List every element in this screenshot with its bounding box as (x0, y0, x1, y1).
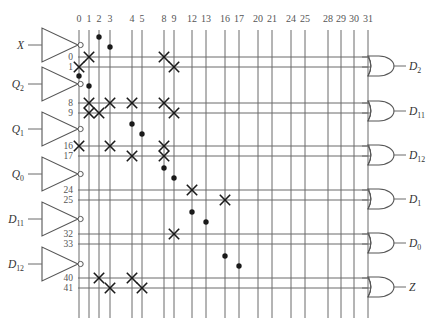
or-gate-body[interactable] (368, 233, 394, 253)
row-label: 40 (64, 273, 74, 283)
column-label: 13 (201, 13, 211, 24)
input-signal-label: X (16, 39, 25, 51)
row-label: 24 (64, 185, 74, 195)
connection-dot[interactable] (222, 253, 227, 258)
inverting-bubble-icon (78, 171, 83, 176)
column-label: 5 (140, 13, 145, 24)
column-label: 24 (286, 13, 296, 24)
pla-diagram-canvas: 0123458912131617202124252829303101891617… (0, 0, 430, 328)
row-label: 17 (64, 151, 74, 161)
row-label: 8 (68, 98, 73, 108)
column-label: 8 (162, 13, 167, 24)
connection-dot[interactable] (189, 209, 194, 214)
buffer-output-link (83, 264, 85, 278)
column-label: 16 (220, 13, 230, 24)
connection-dot[interactable] (171, 175, 176, 180)
or-gate-body[interactable] (368, 189, 394, 209)
column-label: 17 (234, 13, 244, 24)
column-label: 28 (323, 13, 333, 24)
column-label: 20 (253, 13, 263, 24)
column-label: 21 (267, 13, 277, 24)
column-label: 30 (349, 13, 359, 24)
cross-marks-group (74, 52, 230, 293)
column-label: 4 (130, 13, 135, 24)
input-buffers-group: XQ2Q1Q0D11D12 (7, 28, 87, 281)
inverting-bubble-icon (78, 126, 83, 131)
or-gate-body[interactable] (368, 101, 394, 121)
buffer-output-link (83, 45, 85, 57)
inverting-bubble-icon (78, 42, 83, 47)
row-label: 0 (68, 52, 73, 62)
output-signal-label: D1 (408, 193, 421, 208)
row-label: 41 (64, 283, 74, 293)
input-signal-label: D12 (7, 258, 24, 273)
connection-dot[interactable] (86, 83, 91, 88)
connection-dot[interactable] (96, 34, 101, 39)
row-label: 16 (64, 141, 74, 151)
inverting-bubble-icon (78, 216, 83, 221)
column-lines-group: 01234589121316172021242528293031 (77, 13, 374, 318)
or-gate-body[interactable] (368, 277, 394, 297)
connection-dot[interactable] (107, 44, 112, 49)
inverting-bubble-icon (78, 81, 83, 86)
output-signal-label: D2 (408, 60, 421, 75)
connection-dot[interactable] (203, 219, 208, 224)
output-signal-label: Z (409, 281, 416, 293)
output-signal-label: D12 (408, 149, 425, 164)
connection-dot[interactable] (129, 121, 134, 126)
pla-diagram-root: 0123458912131617202124252829303101891617… (0, 0, 430, 328)
column-label: 29 (336, 13, 346, 24)
column-label: 31 (363, 13, 373, 24)
input-signal-label: Q1 (12, 123, 24, 138)
row-label: 32 (64, 229, 74, 239)
row-label: 33 (64, 239, 74, 249)
inverting-bubble-icon (78, 261, 83, 266)
or-gate-body[interactable] (368, 56, 394, 76)
row-label: 9 (68, 108, 73, 118)
buffer-output-link (83, 174, 85, 190)
column-label: 0 (77, 13, 82, 24)
buffer-output-link (83, 84, 85, 103)
column-label: 1 (87, 13, 92, 24)
row-lines-group: 01891617242532334041 (64, 52, 369, 293)
connection-dot[interactable] (139, 131, 144, 136)
or-gate-body[interactable] (368, 145, 394, 165)
row-label: 1 (68, 62, 73, 72)
column-label: 2 (97, 13, 102, 24)
output-gates-group: D2D11D12D1D0Z (362, 56, 425, 297)
output-signal-label: D0 (408, 237, 421, 252)
connection-dot[interactable] (161, 165, 166, 170)
row-label: 25 (64, 195, 74, 205)
buffer-output-link (83, 129, 85, 146)
buffer-output-link (83, 219, 85, 234)
input-signal-label: Q2 (12, 78, 24, 93)
column-label: 3 (108, 13, 113, 24)
column-label: 25 (300, 13, 310, 24)
input-signal-label: D11 (7, 213, 24, 228)
column-label: 9 (172, 13, 177, 24)
output-signal-label: D11 (408, 105, 425, 120)
connection-dot[interactable] (236, 263, 241, 268)
input-signal-label: Q0 (12, 168, 24, 183)
connection-dot[interactable] (76, 73, 81, 78)
column-label: 12 (187, 13, 197, 24)
